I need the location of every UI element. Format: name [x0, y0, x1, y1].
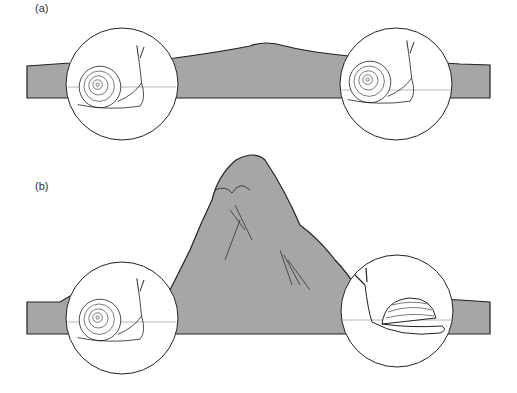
speciation-diagram: [0, 0, 517, 393]
panel-b-right-circle: [341, 255, 453, 367]
panel-b-left-circle: [66, 262, 178, 374]
panel-a-right-circle: [340, 28, 452, 140]
panel-a-left-circle: [66, 28, 178, 140]
